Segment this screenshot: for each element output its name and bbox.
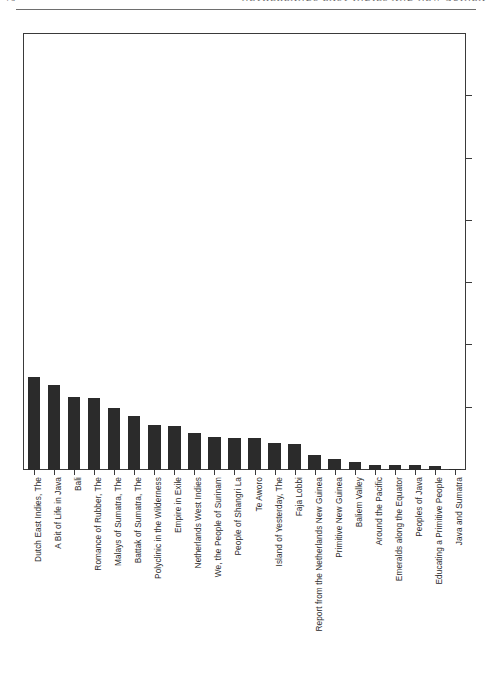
x-axis-label: Faja Lobbi [295, 477, 304, 516]
bar [248, 438, 260, 470]
x-axis-label: Around the Pacific [375, 477, 384, 545]
x-axis-label: People of Shangri La [234, 477, 243, 556]
x-axis-label: Bali [74, 477, 83, 491]
x-axis-label: Polyclinic in the Wilderness [154, 477, 163, 579]
bar [28, 377, 40, 470]
y-axis-tick [466, 158, 472, 159]
x-axis-label: Malays of Sumatra, The [114, 477, 123, 566]
y-axis-tick [466, 344, 472, 345]
x-axis-tick [415, 470, 416, 475]
x-axis-label: Empire in Exile [174, 477, 183, 533]
x-axis-tick [74, 470, 75, 475]
right-axis-ticks [466, 33, 476, 471]
bar [208, 437, 220, 470]
x-axis-tick [34, 470, 35, 475]
x-axis-tick [335, 470, 336, 475]
x-axis-label: Island of Yesterday, The [275, 477, 284, 566]
y-axis-tick [466, 407, 472, 408]
x-axis-label: Battak of Sumatra, The [134, 477, 143, 563]
x-axis-label: Te Aworo [255, 477, 264, 511]
x-axis-tick [114, 470, 115, 475]
bar [88, 398, 100, 470]
x-axis-tick [234, 470, 235, 475]
x-axis-tick [295, 470, 296, 475]
x-axis-label: Emeralds along the Equator [395, 477, 404, 581]
x-axis-labels: Dutch East Indies, TheA Bit of Life in J… [24, 477, 465, 682]
x-axis-tick [455, 470, 456, 475]
bar [288, 444, 300, 470]
x-axis-label: Primitive New Guinea [335, 477, 344, 558]
x-axis-label: Romance of Rubber, The [94, 477, 103, 571]
x-axis-label: Dutch East Indies, The [34, 477, 43, 562]
x-axis-tick [174, 470, 175, 475]
bar [148, 425, 160, 470]
bar [349, 462, 361, 470]
x-axis-tick [275, 470, 276, 475]
x-axis-label: Peoples of Java [415, 477, 424, 537]
x-axis-tick [395, 470, 396, 475]
y-axis-tick [466, 282, 472, 283]
x-axis-tick [315, 470, 316, 475]
x-axis-ticks [24, 470, 465, 476]
x-axis-label: A Bit of Life in Java [54, 477, 63, 549]
bar [128, 416, 140, 470]
x-axis-label: Java and Sumatra [455, 477, 464, 545]
x-axis-tick [94, 470, 95, 475]
x-axis-tick [154, 470, 155, 475]
x-axis-tick [54, 470, 55, 475]
figure-container: Dutch East Indies, TheA Bit of Life in J… [0, 0, 492, 686]
x-axis-tick [255, 470, 256, 475]
x-axis-tick [375, 470, 376, 475]
bar [188, 433, 200, 470]
y-axis-tick [466, 95, 472, 96]
x-axis-tick [134, 470, 135, 475]
bar [228, 438, 240, 470]
bar [308, 455, 320, 470]
x-axis-tick [355, 470, 356, 475]
x-axis-label: Educating a Primitive People [435, 477, 444, 584]
x-axis-tick [194, 470, 195, 475]
bar [168, 426, 180, 470]
bar [108, 408, 120, 470]
x-axis-label: We, the People of Surinam [214, 477, 223, 577]
bars-layer [24, 34, 465, 470]
bar [328, 459, 340, 470]
bar [268, 443, 280, 470]
x-axis-tick [435, 470, 436, 475]
x-axis-label: Netherlands West Indies [194, 477, 203, 568]
y-axis-tick [466, 220, 472, 221]
x-axis-label: Baliem Valley [355, 477, 364, 527]
bar [48, 385, 60, 470]
x-axis-label: Report from the Netherlands New Guinea [315, 477, 324, 632]
x-axis-tick [214, 470, 215, 475]
bar [68, 397, 80, 470]
